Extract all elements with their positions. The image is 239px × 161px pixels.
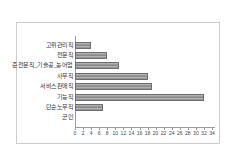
bar [75,42,91,49]
chart-frame: 고위관리직전문직준전문직_기술공_농어업사무직서비스판매직기능직단순노무직군인 … [16,22,220,144]
x-tick-label: 2 [82,131,85,136]
x-tick-label: 8 [106,131,109,136]
bar-row: 군인 [17,113,213,123]
x-tick-label: 12 [121,131,127,136]
x-tick-label: 30 [193,131,199,136]
bar [75,52,107,59]
category-label: 기능직 [57,94,74,101]
x-tick-label: 32 [201,131,207,136]
x-tick-label: 26 [177,131,183,136]
category-cell: 고위관리직 [17,42,75,49]
x-tick-label: 10 [113,131,119,136]
bar-row: 기능직 [17,92,213,102]
category-cell: 준전문직_기술공_농어업 [17,62,75,69]
bar-rows: 고위관리직전문직준전문직_기술공_농어업사무직서비스판매직기능직단순노무직군인 [17,40,213,123]
category-label: 고위관리직 [46,42,74,49]
bar-row: 서비스판매직 [17,82,213,92]
x-tick-label: 34 [209,131,215,136]
x-axis-line [75,127,215,128]
bar [75,62,119,69]
category-cell: 단순노무직 [17,104,75,111]
x-tick-label: 14 [129,131,135,136]
bar [75,94,204,101]
x-tick-label: 0 [74,131,77,136]
category-cell: 전문직 [17,52,75,59]
category-label: 준전문직_기술공_농어업 [12,62,73,69]
bar [75,104,103,111]
bar-row: 전문직 [17,50,213,60]
x-tick-label: 22 [161,131,167,136]
x-tick-label: 20 [153,131,159,136]
x-tick-label: 16 [137,131,143,136]
page: 고위관리직전문직준전문직_기술공_농어업사무직서비스판매직기능직단순노무직군인 … [0,0,239,161]
x-tick-label: 4 [90,131,93,136]
x-tick-label: 28 [185,131,191,136]
bar-row: 준전문직_기술공_농어업 [17,61,213,71]
category-label: 서비스판매직 [40,83,73,90]
x-tick-label: 6 [98,131,101,136]
bar [75,83,152,90]
x-tick-label: 24 [169,131,175,136]
bar-row: 고위관리직 [17,40,213,50]
category-cell: 군인 [17,114,75,121]
x-tick-label: 18 [145,131,151,136]
bar-chart: 고위관리직전문직준전문직_기술공_농어업사무직서비스판매직기능직단순노무직군인 … [17,23,219,143]
category-cell: 사무직 [17,73,75,80]
category-label: 군인 [62,114,73,121]
bar [75,73,148,80]
category-label: 단순노무직 [46,104,74,111]
category-cell: 서비스판매직 [17,83,75,90]
category-cell: 기능직 [17,94,75,101]
category-label: 사무직 [57,73,74,80]
category-label: 전문직 [57,52,74,59]
bar-row: 단순노무직 [17,102,213,112]
bar-row: 사무직 [17,71,213,81]
